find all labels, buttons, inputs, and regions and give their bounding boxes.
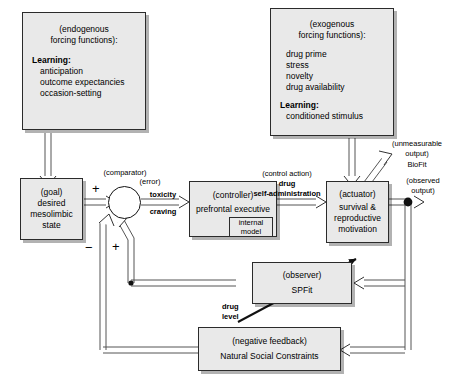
- comparator-plus-observer-sign: +: [112, 240, 120, 253]
- negative-feedback-name: Natural Social Constraints: [220, 351, 318, 362]
- exogenous-item-3: drug availability: [286, 82, 345, 93]
- endogenous-learning-label: Learning:: [32, 55, 71, 66]
- goal-name: desired mesolimbic state: [30, 198, 73, 231]
- endogenous-forcing-functions-box[interactable]: (endogenous forcing functions): Learning…: [22, 12, 146, 130]
- exogenous-learning-label: Learning:: [280, 100, 319, 111]
- unmeasurable-output-role-label: (unmeasurable output): [377, 139, 457, 158]
- exogenous-item-0: drug prime: [286, 49, 327, 60]
- observer-name: SPFit: [292, 285, 313, 296]
- actuator-box[interactable]: (actuator) survival & reproductive motiv…: [326, 181, 389, 243]
- drug-level-label: drug level: [222, 302, 256, 321]
- exogenous-sub-item-0: conditioned stimulus: [286, 111, 363, 122]
- exogenous-item-2: novelty: [286, 71, 313, 82]
- goal-role: (goal): [41, 187, 63, 198]
- goal-box[interactable]: (goal) desired mesolimbic state: [20, 178, 83, 240]
- controller-name: prefrontal executive: [196, 204, 270, 215]
- endogenous-item-1: outcome expectancies: [40, 77, 125, 88]
- toxicity-label: toxicity: [143, 190, 183, 200]
- control-action-name-label: drug self-administration: [249, 179, 325, 198]
- comparator-plus-goal-sign: +: [92, 182, 100, 195]
- wire-exogenous-to-actuator: [344, 138, 360, 186]
- comparator-node[interactable]: [108, 186, 141, 219]
- observer-box[interactable]: (observer) SPFit: [252, 262, 352, 304]
- controller-role: (controller): [213, 190, 254, 201]
- diagram-canvas: (endogenous forcing functions): Learning…: [0, 0, 457, 385]
- exogenous-header: (exogenous forcing functions):: [280, 19, 384, 41]
- endogenous-header: (endogenous forcing functions):: [32, 24, 136, 46]
- negative-feedback-box[interactable]: (negative feedback) Natural Social Const…: [198, 327, 341, 371]
- exogenous-forcing-functions-box[interactable]: (exogenous forcing functions): drug prim…: [270, 8, 394, 136]
- biofit-label: BioFit: [392, 160, 442, 170]
- exogenous-item-1: stress: [286, 60, 309, 71]
- actuator-role: (actuator): [339, 189, 375, 200]
- actuator-name: survival & reproductive motivation: [334, 202, 381, 235]
- comparator-minus-sign: −: [85, 241, 93, 254]
- negative-feedback-role: (negative feedback): [232, 336, 307, 347]
- error-role-label: (error): [130, 177, 170, 187]
- craving-label: craving: [143, 207, 183, 217]
- wire-negative-feedback-to-comparator-minus: [99, 214, 198, 353]
- wire-output-to-observer: [354, 277, 405, 289]
- endogenous-item-2: occasion-setting: [40, 88, 101, 99]
- wire-observed-output-bus: [405, 202, 411, 350]
- wire-output-to-negative-feedback: [340, 344, 408, 356]
- observed-output-role-label: (observed output): [392, 176, 454, 195]
- endogenous-item-0: anticipation: [40, 66, 83, 77]
- observer-role: (observer): [283, 270, 322, 281]
- internal-model-box[interactable]: internal model: [229, 217, 273, 237]
- control-action-role-label: (control action): [249, 169, 325, 179]
